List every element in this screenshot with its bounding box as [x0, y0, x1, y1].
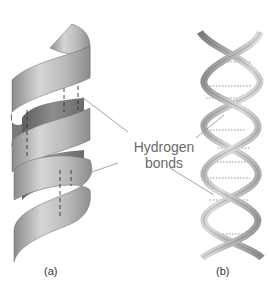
panel-b-label: (b)	[216, 265, 229, 277]
label-line-1: Hydrogen	[118, 139, 210, 155]
label-line-2: bonds	[118, 155, 210, 171]
panel-a-label: (a)	[44, 265, 57, 277]
alpha-helix-ribbon	[11, 24, 92, 262]
hydrogen-bonds-label: Hydrogen bonds	[118, 139, 210, 171]
